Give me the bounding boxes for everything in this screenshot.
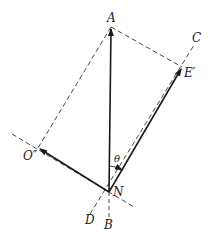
label-a: A [106,11,116,25]
label-b: B [103,218,113,232]
label-theta: θ [114,153,120,164]
vector-n-eprime [109,69,181,192]
vector-n-odoubleprime [40,149,109,192]
label-eprime: E′ [183,66,196,80]
label-d: D [84,213,95,227]
dashed-axis-d-c [90,45,194,214]
vector-diagram: A C E′ O″ N D B θ [0,0,210,235]
dashed-line-a-eprime [111,27,182,67]
label-odoubleprime: O″ [23,149,38,163]
label-n: N [112,185,124,199]
label-c: C [192,31,201,45]
vector-n-a [109,29,111,192]
theta-arc [109,166,122,170]
dashed-line-a-odoubleprime [38,27,111,148]
